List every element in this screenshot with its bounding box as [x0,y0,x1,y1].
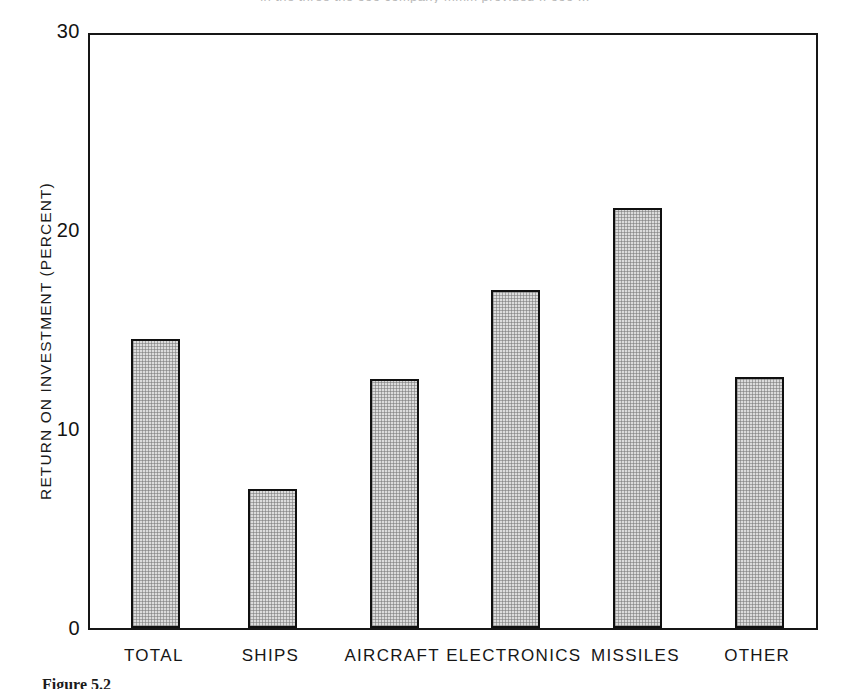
figure-bar-chart: RETURN ON INVESTMENT (PERCENT) 0102030 T… [0,0,850,689]
x-tick-label-other: OTHER [667,646,847,666]
plot-inner [90,35,816,628]
bar-aircraft [370,379,419,628]
bar-electronics [491,290,540,628]
y-tick-label-0: 0 [6,617,80,640]
y-tick-label-10: 10 [6,418,80,441]
bar-other [735,377,784,628]
plot-area-frame [88,33,818,630]
bar-missiles [613,208,662,628]
y-axis-title: RETURN ON INVESTMENT (PERCENT) [37,61,55,621]
figure-caption: Figure 5.2 [42,676,462,689]
y-tick-label-20: 20 [6,219,80,242]
y-tick-label-30: 30 [6,20,80,43]
bar-ships [248,489,297,628]
bar-total [131,339,180,628]
